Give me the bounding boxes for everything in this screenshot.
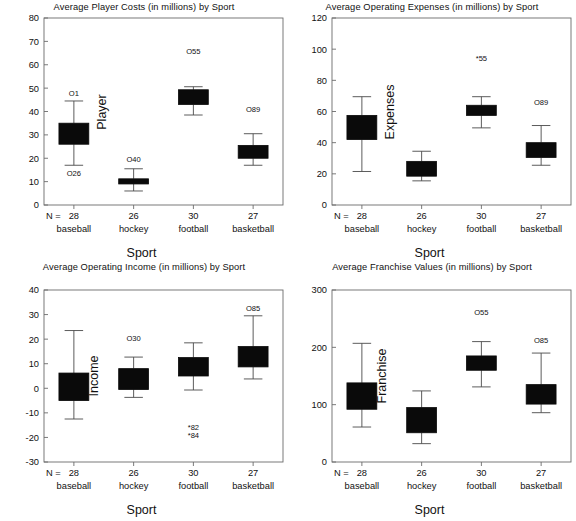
category-label: football <box>466 224 496 234</box>
box-iqr <box>238 145 268 158</box>
y-tick-label: 40 <box>29 107 39 117</box>
box-plot-basketball <box>526 353 556 413</box>
box-iqr <box>347 383 377 409</box>
outlier-marker-85: O85 <box>246 304 260 313</box>
box-iqr <box>178 358 208 376</box>
box-iqr <box>119 179 149 184</box>
box-plot-hockey <box>407 151 437 181</box>
y-tick-label: 20 <box>317 169 327 179</box>
outlier-marker-55: O55 <box>186 47 200 56</box>
outlier-marker-40: O40 <box>126 155 140 164</box>
chart-panel-franchise_values: Average Franchise Values (in millions) b… <box>288 260 576 521</box>
outlier-label: O85 <box>534 336 548 345</box>
boxplot-canvas: -30-20-10010203040N =28baseball26hockey3… <box>0 260 288 521</box>
chart-panel-operating_expenses: Average Operating Expenses (in millions)… <box>288 0 576 260</box>
chart-panel-operating_income: Average Operating Income (in millions) b… <box>0 260 288 521</box>
y-tick-label: 100 <box>311 45 327 55</box>
y-tick-label: -20 <box>26 433 39 443</box>
boxplot-canvas: 020406080100120N =28baseball26hockey30fo… <box>288 0 576 260</box>
y-tick-label: 10 <box>29 177 39 187</box>
category-count-label: 30 <box>188 468 198 478</box>
category-count-label: 26 <box>416 468 426 478</box>
y-tick-label: 300 <box>311 285 327 295</box>
box-plot-football <box>178 87 208 115</box>
category-label: basketball <box>232 224 274 234</box>
category-count-label: 28 <box>69 211 79 221</box>
category-count-label: 27 <box>536 468 546 478</box>
box-iqr <box>526 143 556 158</box>
extreme-label: *55 <box>476 54 487 63</box>
outlier-marker-30: O30 <box>126 334 140 343</box>
outlier-label: O1 <box>69 89 79 98</box>
category-label: hockey <box>119 224 149 234</box>
category-label: football <box>178 481 208 491</box>
y-tick-label: 0 <box>322 200 327 210</box>
category-label: hockey <box>407 481 437 491</box>
outlier-marker-89: O89 <box>534 98 548 107</box>
y-tick-label: -30 <box>26 457 39 467</box>
box-iqr <box>466 356 496 370</box>
box-plot-hockey <box>119 169 149 191</box>
y-tick-label: 60 <box>317 107 327 117</box>
category-label: basketball <box>520 481 562 491</box>
outlier-label: O40 <box>126 155 140 164</box>
y-tick-label: 40 <box>29 285 39 295</box>
box-iqr <box>347 115 377 139</box>
plot-frame <box>332 290 571 462</box>
y-tick-label: 30 <box>29 310 39 320</box>
outlier-marker-55: O55 <box>474 308 488 317</box>
y-tick-label: 20 <box>29 154 39 164</box>
y-tick-label: 80 <box>29 13 39 23</box>
y-tick-label: 40 <box>317 138 327 148</box>
y-tick-label: 120 <box>311 13 327 23</box>
n-prefix-label: N = <box>46 211 61 221</box>
y-tick-label: 0 <box>34 200 39 210</box>
category-count-label: 28 <box>69 468 79 478</box>
outlier-label: O55 <box>474 308 488 317</box>
outlier-label: O55 <box>186 47 200 56</box>
n-prefix-label: N = <box>46 468 61 478</box>
category-count-label: 27 <box>536 211 546 221</box>
category-label: football <box>178 224 208 234</box>
y-tick-label: 50 <box>29 84 39 94</box>
box-plot-baseball <box>59 331 89 419</box>
y-tick-label: -10 <box>26 408 39 418</box>
category-count-label: 27 <box>248 211 258 221</box>
outlier-label: O89 <box>246 105 260 114</box>
y-tick-label: 30 <box>29 130 39 140</box>
category-count-label: 30 <box>476 211 486 221</box>
box-iqr <box>178 90 208 105</box>
category-label: baseball <box>57 224 92 234</box>
category-label: baseball <box>345 481 380 491</box>
box-iqr <box>59 123 89 144</box>
category-label: basketball <box>232 481 274 491</box>
category-count-label: 28 <box>357 211 367 221</box>
box-iqr <box>59 373 89 401</box>
box-plot-football <box>466 342 496 387</box>
outlier-marker-55: *55 <box>476 54 487 63</box>
outlier-label: O30 <box>126 334 140 343</box>
n-prefix-label: N = <box>334 211 349 221</box>
box-plot-football <box>466 97 496 128</box>
boxplot-canvas: 0100200300N =28baseball26hockey30footbal… <box>288 260 576 521</box>
chart-panel-player_costs: Average Player Costs (in millions) by Sp… <box>0 0 288 260</box>
n-prefix-label: N = <box>334 468 349 478</box>
box-plot-basketball <box>238 316 268 379</box>
category-label: baseball <box>57 481 92 491</box>
y-tick-label: 0 <box>322 457 327 467</box>
box-plot-hockey <box>407 391 437 444</box>
y-tick-label: 200 <box>311 343 327 353</box>
box-iqr <box>238 347 268 367</box>
category-count-label: 26 <box>416 211 426 221</box>
category-count-label: 30 <box>476 468 486 478</box>
category-count-label: 26 <box>128 468 138 478</box>
y-tick-label: 70 <box>29 37 39 47</box>
outlier-label: O26 <box>67 169 81 178</box>
box-plot-basketball <box>526 126 556 166</box>
boxplot-canvas: 01020304050607080N =28baseball26hockey30… <box>0 0 288 260</box>
outlier-label: O89 <box>534 98 548 107</box>
y-tick-label: 0 <box>34 384 39 394</box>
box-plot-football <box>178 343 208 390</box>
outlier-marker-84: *84 <box>188 431 199 440</box>
outlier-marker-85: O85 <box>534 336 548 345</box>
